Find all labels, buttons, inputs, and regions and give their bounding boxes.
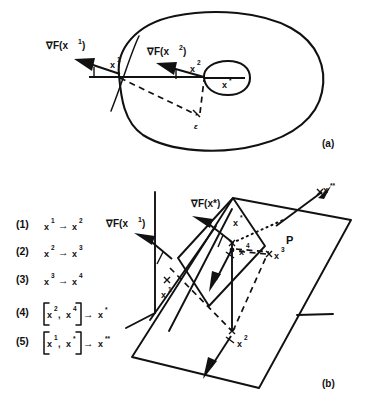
step-item-5: (5) x 1 , x * → x ** (16, 332, 111, 354)
label-grad-x1-a: ∇F(x 1 ) (45, 38, 85, 51)
point-x3-sup-b: 3 (281, 246, 285, 253)
point-x2-sup-a: 2 (197, 59, 201, 66)
point-marker-x1-b (164, 277, 170, 283)
step-5-first-base: x (47, 339, 52, 349)
panel-a: ∇F(x 1 ) ∇F(x 2 ) x 1 x 2 x * ε (45, 12, 334, 151)
step-item-4: (4) x 2 , x 4 → x * (16, 303, 108, 325)
step-2-arrow: → (58, 246, 69, 258)
label-grad-x2-a: ∇F(x 2 ) (146, 44, 186, 57)
label-grad-x1-b: ∇F(x 1 ) (105, 216, 145, 229)
point-marker-x4-b (230, 248, 235, 253)
step-2-to-sup: 3 (79, 244, 83, 251)
step-5-result-base: x (98, 339, 103, 349)
label-point-x2-b: x 2 (237, 334, 248, 349)
step-1-to-sup: 2 (79, 217, 83, 224)
iteration-step-list: (1) x 1 → x 2 (2) x 2 → x 3 (3) x 3 (16, 217, 111, 354)
step-item-2: (2) x 2 → x 3 (16, 244, 83, 259)
step-2-from-base: x (44, 249, 49, 259)
panel-a-caption: (a) (322, 138, 334, 149)
step-3-to-base: x (72, 277, 77, 287)
step-2-from-sup: 2 (51, 244, 55, 251)
step-4-comma: , (58, 310, 61, 320)
epsilon-dashed-line (120, 78, 197, 115)
point-xstarstar-sup-b: ** (330, 182, 336, 189)
point-xstar-sup-b: * (240, 214, 243, 221)
step-3-to-sup: 4 (79, 272, 83, 279)
step-4-result-sup: * (105, 306, 108, 313)
point-xstar-base-b: x (233, 218, 238, 228)
step-item-1: (1) x 1 → x 2 (16, 217, 83, 232)
gradient-arrow-x4-head (209, 271, 221, 292)
dotted-line-xstar-xstarstar (232, 220, 283, 243)
label-point-xstarstar-b: x ** (323, 182, 336, 195)
label-point-x2-a: x 2 (190, 59, 201, 74)
point-x4-base-b: x (239, 247, 244, 257)
gradient-arrow-x1b-head (134, 233, 155, 245)
step-1-from-base: x (44, 222, 49, 232)
step-4-number: (4) (16, 306, 29, 318)
outer-contour-curve (119, 12, 324, 151)
grad-xstar-label-b: ∇F(x*) (190, 198, 220, 209)
epsilon-dashed-vertical (200, 80, 204, 113)
step-2-to-base: x (72, 249, 77, 259)
step-4-second-sup: 4 (73, 305, 77, 312)
panel-b-caption: (b) (322, 378, 335, 389)
step-4-first-base: x (47, 310, 52, 320)
gradient-arrow-x2-shaft (172, 68, 204, 77)
step-5-bracket-right (76, 332, 81, 354)
grad-x1-close-a: ) (82, 40, 85, 51)
grad-x2-close-a: ) (183, 46, 186, 57)
step-item-3: (3) x 3 → x 4 (16, 272, 83, 287)
step-5-second-sup: * (73, 335, 76, 342)
point-x2-base-b: x (237, 339, 242, 349)
point-x3-base-b: x (274, 251, 279, 261)
step-3-from-base: x (44, 277, 49, 287)
point-x1-sup-a: 1 (117, 56, 121, 63)
point-x4-sup-b: 4 (246, 242, 250, 249)
step-4-bracket-right (76, 303, 81, 325)
step-2-number: (2) (16, 245, 29, 257)
step-5-second-base: x (66, 339, 71, 349)
step-1-to-base: x (72, 222, 77, 232)
grad-x1-text-b: ∇F(x (105, 218, 128, 229)
label-point-xstar-b: x * (233, 214, 243, 228)
gradient-angle-tick-xstar (218, 235, 223, 247)
point-x1-base-b: x (161, 290, 166, 300)
gradient-arrow-x1-head (74, 58, 95, 71)
step-4-arrow: → (83, 308, 94, 320)
panel-b: ∇F(x 1 ) ∇F(x*) x 1 x 2 x 3 x 4 (105, 182, 351, 389)
dashed-x1-to-x2 (170, 268, 232, 331)
plane-p-right-stub (297, 314, 333, 315)
epsilon-corner-tick (193, 110, 200, 117)
gradient-angle-tick-x1b (157, 252, 163, 264)
grad-x1-text-a: ∇F(x (45, 40, 68, 51)
point-x2-sup-b: 2 (244, 334, 248, 341)
step-4-result-base: x (98, 310, 103, 320)
label-point-x3-b: x 3 (274, 246, 285, 261)
step-5-result-sup: ** (105, 335, 111, 342)
gradient-arrow-xstar-head (192, 216, 213, 228)
step-3-arrow: → (58, 274, 69, 286)
dashed-x2-to-x3 (233, 255, 267, 331)
step-3-number: (3) (16, 273, 29, 285)
figure-root: ∇F(x 1 ) ∇F(x 2 ) x 1 x 2 x * ε (0, 0, 373, 403)
step-1-arrow: → (58, 219, 69, 231)
step-4-second-base: x (66, 310, 71, 320)
point-x1-base-a: x (110, 60, 115, 70)
step-5-number: (5) (16, 335, 29, 347)
step-1-from-sup: 1 (51, 217, 55, 224)
figure-canvas: ∇F(x 1 ) ∇F(x 2 ) x 1 x 2 x * ε (0, 0, 373, 403)
plane-p-label: P (286, 234, 293, 246)
point-x2-base-a: x (190, 64, 195, 74)
epsilon-label-a: ε (194, 122, 198, 131)
step-3-from-sup: 3 (51, 272, 55, 279)
line-through-xstar (169, 209, 232, 331)
step-1-number: (1) (16, 218, 29, 230)
grad-x1-close-b: ) (142, 218, 145, 229)
step-5-arrow: → (83, 337, 94, 349)
gradient-arrow-x2-head (156, 62, 177, 75)
point-xstar-base-a: x (222, 80, 227, 90)
point-xstarstar-base-b: x (323, 185, 328, 195)
grad-x2-text-a: ∇F(x (146, 46, 169, 57)
point-x1-sup-b: 1 (168, 286, 172, 293)
